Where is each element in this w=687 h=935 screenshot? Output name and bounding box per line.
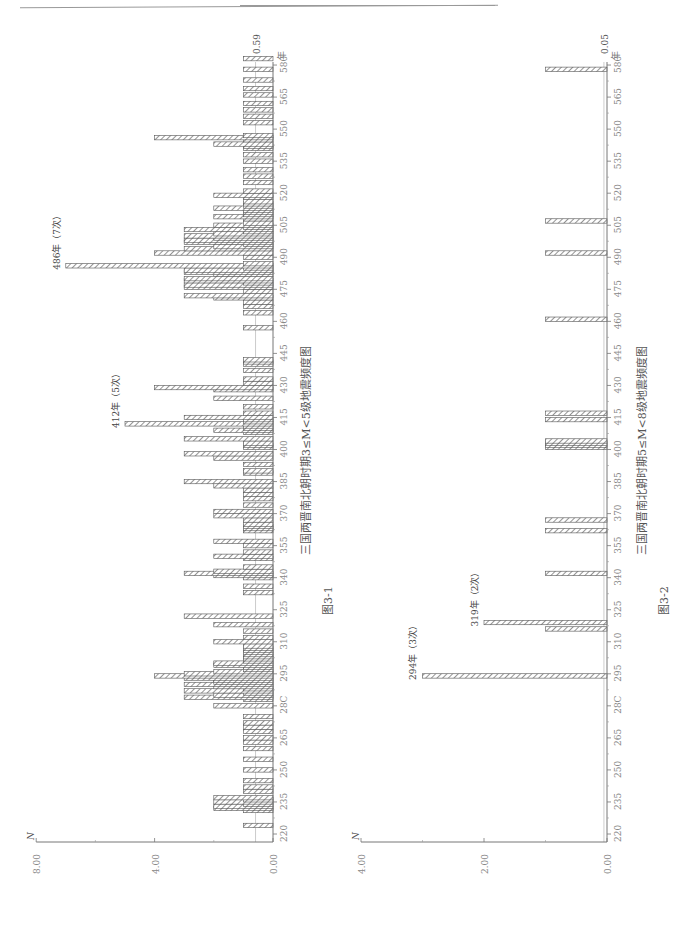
- year-tick-label: 370: [613, 504, 623, 521]
- bar: [423, 674, 608, 678]
- year-tick-label: 265: [613, 728, 623, 745]
- bar: [214, 514, 273, 518]
- bar: [546, 417, 608, 421]
- bar: [484, 620, 607, 624]
- bar: [243, 101, 273, 105]
- year-tick-label: 430: [613, 376, 623, 393]
- bar: [243, 462, 273, 466]
- bar: [243, 159, 273, 163]
- bar: [243, 488, 273, 492]
- bar: [243, 725, 273, 729]
- bar: [546, 67, 608, 71]
- year-tick-label: 505: [279, 216, 289, 233]
- bar: [243, 114, 273, 118]
- annotation-label: 294年（3次）: [408, 621, 419, 680]
- bar: [243, 108, 273, 112]
- year-tick-label: 550: [279, 120, 289, 137]
- year-tick-label: 415: [279, 408, 289, 425]
- year-tick-label: 370: [279, 504, 289, 521]
- bar: [243, 133, 273, 137]
- bar: [214, 484, 273, 488]
- year-tick-label: 355: [613, 536, 623, 553]
- mean-line-label: 0.59: [252, 34, 262, 54]
- bar: [243, 300, 273, 304]
- bar: [243, 255, 273, 259]
- year-tick-label: 28C: [279, 695, 289, 713]
- bar: [214, 704, 273, 708]
- bar: [243, 740, 273, 744]
- year-axis-title: 年: [610, 51, 621, 60]
- bar: [214, 509, 273, 513]
- bar: [214, 539, 273, 543]
- bar: [243, 381, 273, 385]
- year-tick-label: 295: [613, 664, 623, 681]
- bar: [243, 550, 273, 554]
- bar: [184, 614, 273, 618]
- figure-title: 三国两晋南北朝时期5≤M<8级地震频度图: [635, 346, 649, 555]
- bar: [546, 411, 608, 415]
- bar: [243, 377, 273, 381]
- value-tick-label: 2.00: [480, 854, 490, 874]
- bar: [243, 189, 273, 193]
- value-axis-title: N: [26, 831, 36, 841]
- bar: [243, 757, 273, 761]
- bar: [243, 405, 273, 409]
- bar: [243, 221, 273, 225]
- year-tick-label: 310: [279, 632, 289, 649]
- bar: [546, 219, 608, 223]
- bar: [243, 200, 273, 204]
- value-tick-label: 8.00: [32, 854, 42, 874]
- bar: [66, 264, 273, 268]
- bar: [243, 729, 273, 733]
- year-tick-label: 28C: [613, 695, 623, 713]
- bar: [243, 56, 273, 60]
- year-tick-label: 445: [279, 344, 289, 361]
- bar: [214, 795, 273, 799]
- bar: [243, 635, 273, 639]
- bar: [243, 326, 273, 330]
- year-tick-label: 220: [613, 825, 623, 842]
- figure-caption: 图3-1: [322, 586, 335, 615]
- bar: [243, 121, 273, 125]
- year-tick-label: 415: [613, 408, 623, 425]
- bar: [243, 629, 273, 633]
- year-tick-label: 460: [279, 312, 289, 329]
- year-tick-label: 250: [613, 760, 623, 777]
- bar: [214, 396, 273, 400]
- year-tick-label: 490: [613, 248, 623, 265]
- year-tick-label: 430: [279, 376, 289, 393]
- bar: [243, 543, 273, 547]
- bar: [243, 496, 273, 500]
- value-tick-label: 0.00: [603, 854, 613, 874]
- year-tick-label: 400: [613, 440, 623, 457]
- bar: [214, 554, 273, 558]
- annotation-label: 319年（2次）: [469, 568, 480, 627]
- figure-caption: 图3-2: [658, 586, 671, 615]
- year-tick-label: 385: [279, 472, 289, 489]
- figure-title: 三国两晋南北朝时期3≤M<5级地震频度图: [299, 346, 313, 555]
- year-tick-label: 220: [279, 825, 289, 842]
- value-tick-label: 4.00: [357, 854, 367, 874]
- year-axis-title: 年: [276, 51, 287, 60]
- bar: [243, 304, 273, 308]
- year-tick-label: 265: [279, 728, 289, 745]
- bar: [184, 437, 273, 441]
- bar: [243, 67, 273, 71]
- bar: [243, 168, 273, 172]
- year-tick-label: 475: [613, 280, 623, 297]
- bar: [546, 439, 608, 443]
- bar: [243, 86, 273, 90]
- value-axis-title: N: [351, 831, 361, 841]
- bar: [243, 358, 273, 362]
- bar: [243, 441, 273, 445]
- bar: [184, 452, 273, 456]
- bar: [243, 518, 273, 522]
- bar: [214, 640, 273, 644]
- year-tick-label: 460: [613, 312, 623, 329]
- value-tick-label: 4.00: [151, 854, 161, 874]
- bar: [243, 644, 273, 648]
- bar: [243, 522, 273, 526]
- year-tick-label: 325: [279, 600, 289, 617]
- bar: [184, 479, 273, 483]
- bar: [184, 294, 273, 298]
